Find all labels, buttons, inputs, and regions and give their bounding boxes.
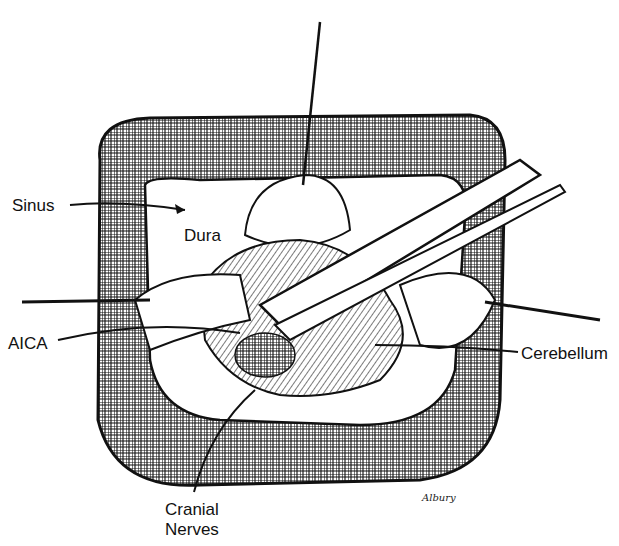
artist-signature: Albury: [422, 492, 456, 503]
label-aica: AICA: [8, 334, 48, 353]
surgical-drawing: [0, 0, 619, 546]
label-cranial-nerves-2: Nerves: [165, 520, 219, 539]
label-cranial-nerves-1: Cranial: [165, 500, 219, 519]
label-sinus: Sinus: [12, 196, 55, 215]
label-cerebellum: Cerebellum: [521, 344, 608, 363]
illustration: Sinus Dura AICA Cerebellum Cranial Nerve…: [0, 0, 619, 546]
label-dura: Dura: [184, 226, 221, 245]
